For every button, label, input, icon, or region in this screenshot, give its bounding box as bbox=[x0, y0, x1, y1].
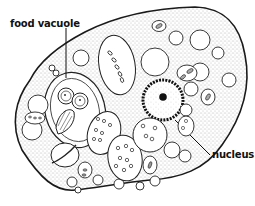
label-food-vacuole: food vacuole bbox=[10, 18, 80, 29]
cell-diagram: food vacuole nucleus bbox=[0, 0, 255, 206]
cell-drawing bbox=[0, 0, 255, 206]
label-nucleus: nucleus bbox=[212, 149, 254, 160]
